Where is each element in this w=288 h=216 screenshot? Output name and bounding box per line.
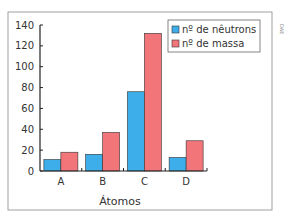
bar-C-neutrons (127, 92, 144, 171)
x-tick-label: A (57, 176, 64, 187)
x-tick-label: C (141, 176, 148, 187)
y-tick-label: 80 (21, 82, 34, 93)
y-tick-label: 120 (15, 40, 34, 51)
y-tick-label: 40 (21, 124, 34, 135)
x-tick-label: B (99, 176, 106, 187)
y-tick-label: 60 (21, 103, 34, 114)
y-tick-label: 140 (15, 20, 34, 31)
bar-D-neutrons (169, 157, 186, 171)
bar-A-neutrons (44, 160, 61, 171)
bar-B-neutrons (86, 154, 103, 171)
bar-chart: 020406080100120140 ABCD Átomos nº de nêu… (0, 0, 288, 216)
y-tick-label: 20 (21, 145, 34, 156)
y-tick-label: 100 (15, 61, 34, 72)
bar-A-mass (61, 152, 78, 171)
credit-label: DAE (279, 24, 285, 34)
legend-swatch (172, 26, 179, 33)
bar-B-mass (103, 132, 120, 171)
bar-C-mass (144, 33, 161, 171)
x-tick-label: D (182, 176, 190, 187)
legend-label: nº de nêutrons (182, 24, 256, 35)
y-tick-label: 0 (28, 166, 34, 177)
legend-label: nº de massa (182, 38, 244, 49)
legend: nº de nêutronsnº de massa (168, 20, 260, 52)
bar-D-mass (186, 141, 203, 171)
legend-swatch (172, 40, 179, 47)
x-axis-title: Átomos (99, 195, 141, 208)
